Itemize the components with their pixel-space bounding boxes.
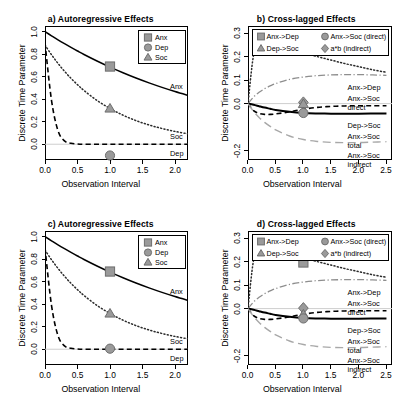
x-axis-title: Observation Interval <box>0 384 202 394</box>
legend-item-anx: Anx <box>155 238 167 247</box>
curve-label-soc: Soc <box>170 338 183 346</box>
y-tick-label: 0.6 <box>29 71 39 83</box>
y-tick-mark <box>42 281 46 282</box>
x-tick-mark <box>302 160 303 164</box>
y-tick-mark <box>244 56 248 57</box>
x-tick-label: 2.0 <box>162 165 188 175</box>
y-tick-label: 0.1 <box>232 279 242 291</box>
y-tick-mark <box>42 121 46 122</box>
x-tick-label: 0.5 <box>262 165 288 175</box>
x-axis-title: Observation Interval <box>202 179 403 189</box>
y-tick-label: 0.1 <box>232 74 242 86</box>
x-tick-label: 0.5 <box>65 370 91 380</box>
x-tick-mark <box>386 365 387 369</box>
y-tick-mark <box>42 31 46 32</box>
panel-b: b) Cross-lagged Effects 0.00.51.01.52.02… <box>202 0 403 205</box>
y-tick-mark <box>42 304 46 305</box>
y-tick-label: 0.0 <box>232 98 242 110</box>
y-tick-label: 0.0 <box>29 138 39 150</box>
x-tick-label: 0.0 <box>32 165 58 175</box>
x-tick-label: 2.5 <box>373 370 399 380</box>
x-tick-mark <box>175 160 176 164</box>
y-tick-mark <box>244 150 248 151</box>
y-tick-label: 0.2 <box>232 51 242 63</box>
x-tick-mark <box>330 160 331 164</box>
legend-item-dep: Dep <box>155 248 168 257</box>
y-tick-label: 0.3 <box>232 232 242 244</box>
y-tick-mark <box>244 308 248 309</box>
x-tick-mark <box>45 365 46 369</box>
x-tick-label: 1.5 <box>130 370 156 380</box>
y-tick-mark <box>42 326 46 327</box>
y-tick-label: 0.2 <box>29 116 39 128</box>
y-tick-mark <box>42 259 46 260</box>
x-tick-mark <box>142 365 143 369</box>
x-tick-label: 1.0 <box>97 370 123 380</box>
curve-label-dep-soc: Dep->Soc <box>348 122 381 130</box>
y-tick-label: 0.3 <box>232 27 242 39</box>
y-tick-label: 0.4 <box>29 93 39 105</box>
legend-item-anx: Anx <box>155 33 167 42</box>
x-tick-label: 2.0 <box>162 370 188 380</box>
y-tick-mark <box>42 76 46 77</box>
y-tick-label: 0.8 <box>29 253 39 265</box>
curve-label-dep: Dep <box>170 150 184 158</box>
curve-label-anx-soc-direct-2: direct <box>348 104 366 112</box>
panel-a: a) Autoregressive Effects 0.00.51.01.52.… <box>0 0 202 205</box>
x-tick-mark <box>77 365 78 369</box>
x-tick-label: 0.0 <box>32 370 58 380</box>
legend-item-dep-soc: Dep->Soc <box>267 249 299 258</box>
y-axis-title: Discrete Time Parameter <box>17 249 27 346</box>
y-tick-label: 0.2 <box>29 321 39 333</box>
legend-item-soc: Soc <box>155 258 167 267</box>
curve-label-anx-soc-total-2: total <box>348 347 362 355</box>
legend-item-anx-dep: Anx->Dep <box>267 32 299 41</box>
y-tick-label: 1.0 <box>29 26 39 38</box>
y-tick-mark <box>244 285 248 286</box>
legend-item-anx-soc-direct: Anx->Soc (direct) <box>331 32 387 41</box>
curve-label-dep-soc: Dep->Soc <box>348 327 381 335</box>
x-tick-label: 1.5 <box>130 165 156 175</box>
x-tick-mark <box>45 160 46 164</box>
x-tick-mark <box>110 365 111 369</box>
legend-item-anx-soc-direct: Anx->Soc (direct) <box>331 237 387 246</box>
figure-grid: a) Autoregressive Effects 0.00.51.01.52.… <box>0 0 403 410</box>
curve-label-dep: Dep <box>170 355 184 363</box>
x-tick-mark <box>302 365 303 369</box>
panel-d-legend: Anx->Dep Anx->Soc (direct) Dep->Soc a*b … <box>252 234 389 261</box>
y-tick-mark <box>244 238 248 239</box>
legend-item-anx-dep: Anx->Dep <box>267 237 299 246</box>
y-tick-mark <box>244 355 248 356</box>
legend-item-dep-soc: Dep->Soc <box>267 44 299 53</box>
x-tick-mark <box>175 365 176 369</box>
x-tick-mark <box>386 160 387 164</box>
x-tick-label: 1.5 <box>318 370 344 380</box>
x-tick-mark <box>275 365 276 369</box>
y-tick-mark <box>42 99 46 100</box>
y-tick-mark <box>42 349 46 350</box>
y-tick-mark <box>244 33 248 34</box>
y-tick-label: 0.8 <box>29 48 39 60</box>
x-tick-label: 1.0 <box>97 165 123 175</box>
y-tick-label: 0.2 <box>232 256 242 268</box>
curve-label-anx-soc-total-2: total <box>348 142 362 150</box>
curve-label-anx-dep: Anx->Dep <box>348 84 381 92</box>
y-tick-mark <box>42 236 46 237</box>
x-tick-mark <box>247 160 248 164</box>
x-tick-mark <box>247 365 248 369</box>
x-tick-label: 1.5 <box>318 165 344 175</box>
legend-item-soc: Soc <box>155 53 167 62</box>
y-tick-label: 1.0 <box>29 231 39 243</box>
y-tick-label: 0.4 <box>29 298 39 310</box>
y-tick-mark <box>42 144 46 145</box>
curve-label-soc: Soc <box>170 133 183 141</box>
y-tick-mark <box>42 54 46 55</box>
panel-d: d) Cross-lagged Effects 0.00.51.01.52.02… <box>202 205 403 410</box>
panel-b-legend: Anx->Dep Anx->Soc (direct) Dep->Soc a*b … <box>252 29 389 56</box>
curve-label-anx-soc-ind-2: indirect <box>348 161 372 169</box>
y-tick-label: 0.0 <box>232 303 242 315</box>
x-tick-label: 1.0 <box>290 165 316 175</box>
y-tick-mark <box>244 261 248 262</box>
y-tick-label: 0.0 <box>29 343 39 355</box>
curve-label-anx-soc-ind-2: indirect <box>348 366 372 374</box>
